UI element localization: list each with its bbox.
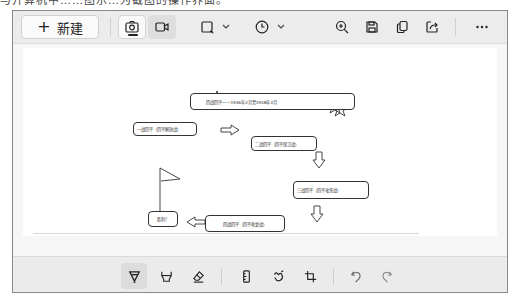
- box-label: 四战四平（四平收复战）: [223, 221, 267, 227]
- ballpoint-pen-tool[interactable]: [121, 263, 147, 289]
- diagram-box-victory: 胜利！: [148, 211, 178, 227]
- zoom-in-icon: [334, 19, 350, 35]
- redo-icon: [379, 269, 394, 284]
- screenshot-canvas[interactable]: 四战四平——1946年3月至1948年3月 一战四平（四平解放战） 二战四平（四…: [23, 48, 497, 236]
- pen-icon: [127, 269, 142, 284]
- plus-icon: +: [37, 19, 50, 35]
- divider: [221, 269, 222, 285]
- diagram-title-text: 四战四平——1946年3月至1948年3月: [206, 99, 277, 105]
- capture-shape-button[interactable]: [193, 15, 221, 39]
- redo-button[interactable]: [373, 263, 399, 289]
- flag-icon: [160, 168, 180, 211]
- box-label: 二战四平（四平保卫战）: [255, 141, 299, 147]
- touch-writing-icon: [271, 269, 286, 284]
- box-label: 一战四平（四平解放战）: [137, 126, 181, 132]
- left-arrow-icon: [187, 217, 205, 227]
- chevron-down-icon[interactable]: [221, 20, 231, 32]
- chevron-down-icon[interactable]: [276, 20, 286, 32]
- undo-icon: [349, 269, 364, 284]
- right-arrow-icon: [221, 125, 239, 135]
- copy-icon: [394, 19, 410, 35]
- snipping-tool-window: + 新建: [12, 10, 508, 293]
- ruler-icon: [239, 269, 254, 284]
- box-label: 胜利！: [157, 216, 169, 222]
- new-button[interactable]: + 新建: [21, 15, 99, 39]
- zoom-in-button[interactable]: [328, 15, 356, 39]
- more-button[interactable]: [468, 15, 496, 39]
- down-arrow-icon: [311, 206, 323, 222]
- copy-button[interactable]: [388, 15, 416, 39]
- screenshot-mode-button[interactable]: [118, 15, 146, 39]
- new-button-label: 新建: [57, 18, 83, 37]
- diagram-box-battle4: 四战四平（四平收复战）: [205, 215, 285, 232]
- highlighter-tool[interactable]: [153, 263, 179, 289]
- down-arrow-icon: [313, 152, 325, 168]
- clock-icon: [254, 19, 270, 35]
- share-icon: [424, 19, 440, 35]
- undo-button[interactable]: [343, 263, 369, 289]
- crop-tool[interactable]: [297, 263, 323, 289]
- delay-button[interactable]: [248, 15, 276, 39]
- video-camera-icon: [154, 19, 170, 35]
- divider: [455, 18, 456, 36]
- box-label: 三战四平（四平攻坚战）: [297, 187, 341, 193]
- canvas-bottom-edge: [33, 233, 419, 234]
- eraser-icon: [191, 269, 206, 284]
- more-horizontal-icon: [474, 19, 490, 35]
- save-button[interactable]: [358, 15, 386, 39]
- touch-writing-tool[interactable]: [265, 263, 291, 289]
- camera-icon: [124, 19, 140, 35]
- diagram-box-battle1: 一战四平（四平解放战）: [133, 122, 197, 136]
- ruler-tool[interactable]: [233, 263, 259, 289]
- video-mode-button[interactable]: [148, 15, 176, 39]
- share-button[interactable]: [418, 15, 446, 39]
- crop-icon: [303, 269, 318, 284]
- markup-toolbar: [13, 256, 507, 293]
- floppy-disk-icon: [364, 19, 380, 35]
- divider: [110, 18, 111, 36]
- diagram-title-box: 四战四平——1946年3月至1948年3月: [190, 93, 355, 110]
- eraser-tool[interactable]: [185, 263, 211, 289]
- diagram-box-battle3: 三战四平（四平攻坚战）: [293, 181, 369, 199]
- cropped-caption-text: 与开算机中……图示…为截图的操作界面。: [0, 0, 514, 5]
- diagram-box-battle2: 二战四平（四平保卫战）: [251, 136, 317, 151]
- highlighter-icon: [159, 269, 174, 284]
- divider: [333, 269, 334, 285]
- top-toolbar: + 新建: [13, 11, 507, 44]
- rectangle-select-icon: [199, 19, 215, 35]
